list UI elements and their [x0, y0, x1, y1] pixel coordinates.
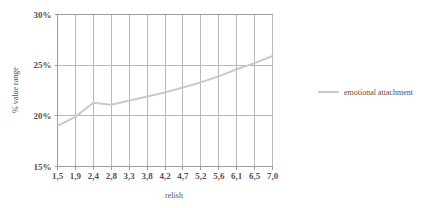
- legend-label: emotional attachment: [344, 88, 414, 97]
- x-axis-tick-labels: 1,51,92,42,83,33,84,24,75,25,66,16,57,0: [52, 171, 279, 181]
- y-axis-title: % value range: [11, 67, 20, 113]
- x-tick-label: 1,5: [52, 171, 64, 181]
- x-tick-label: 2,4: [88, 171, 100, 181]
- x-tick-label: 5,2: [195, 171, 207, 181]
- y-axis-tick-labels: 15%20%25%30%: [34, 10, 52, 172]
- x-axis-title: relish: [165, 191, 183, 200]
- x-tick-label: 4,7: [177, 171, 189, 181]
- x-tick-label: 1,9: [70, 171, 82, 181]
- x-tick-label: 3,8: [141, 171, 153, 181]
- x-tick-label: 4,2: [159, 171, 171, 181]
- x-tick-label: 3,3: [124, 171, 136, 181]
- x-tick-label: 7,0: [267, 171, 279, 181]
- chart-figure: 15%20%25%30% 1,51,92,42,83,33,84,24,75,2…: [0, 0, 436, 208]
- y-tick-label: 20%: [34, 111, 52, 121]
- line-chart: 15%20%25%30% 1,51,92,42,83,33,84,24,75,2…: [0, 0, 436, 208]
- x-tick-label: 5,6: [213, 171, 225, 181]
- y-tick-label: 25%: [34, 60, 52, 70]
- x-tick-label: 2,8: [106, 171, 118, 181]
- chart-legend: emotional attachment: [318, 88, 414, 97]
- grid-lines: [58, 15, 273, 167]
- x-tick-label: 6,1: [231, 171, 243, 181]
- y-tick-label: 30%: [34, 10, 52, 20]
- x-tick-label: 6,5: [249, 171, 261, 181]
- y-tick-label: 15%: [34, 162, 52, 172]
